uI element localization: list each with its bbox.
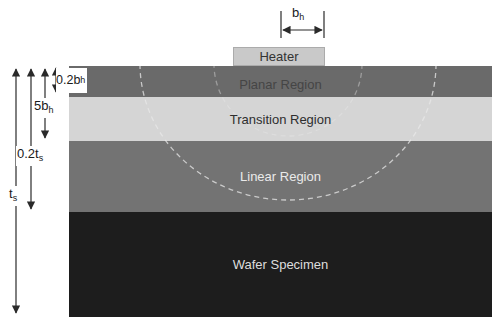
region-transition: Transition Region bbox=[69, 97, 492, 141]
region-planar: Planar Region bbox=[69, 66, 492, 97]
specimen-stack: Planar Region Transition Region Linear R… bbox=[69, 66, 492, 317]
heater-wafer-cross-section-diagram: Heater Planar Region Transition Region L… bbox=[0, 0, 503, 328]
heater-block: Heater bbox=[233, 47, 325, 66]
region-wafer-label: Wafer Specimen bbox=[233, 257, 329, 272]
region-planar-label: Planar Region bbox=[239, 72, 321, 92]
heater-label: Heater bbox=[259, 49, 298, 64]
dim-label-ts: ts bbox=[7, 186, 19, 206]
region-wafer: Wafer Specimen bbox=[69, 212, 492, 317]
dim-label-02bh: 0.2bh bbox=[56, 68, 87, 93]
region-transition-label: Transition Region bbox=[230, 112, 331, 127]
region-linear-label: Linear Region bbox=[240, 169, 321, 184]
dim-label-bh: bh bbox=[292, 5, 304, 25]
dim-label-02ts: 0.2ts bbox=[16, 146, 44, 166]
dim-label-5bh: 5bh bbox=[33, 98, 54, 118]
region-linear: Linear Region bbox=[69, 141, 492, 212]
